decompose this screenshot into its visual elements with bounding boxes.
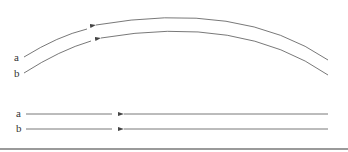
curve-a-right-segment [96, 18, 328, 60]
bottom-divider [0, 148, 348, 150]
curve-b-right-segment [101, 31, 328, 75]
curve-label-a: a [14, 52, 19, 63]
curve-a-left-segment [24, 29, 87, 57]
diagram-root: a b a b [0, 0, 348, 152]
curve-label-b: b [14, 68, 20, 79]
straight-label-b: b [16, 123, 22, 134]
straight-label-a: a [16, 108, 21, 119]
path-diagram-svg [0, 0, 348, 152]
curve-b-left-segment [24, 41, 91, 73]
